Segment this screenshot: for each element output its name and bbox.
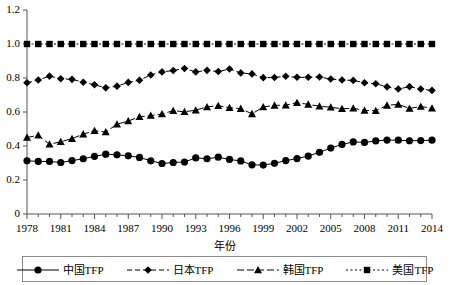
- data-point-square: [91, 41, 97, 47]
- data-point-square: [328, 41, 334, 47]
- data-point-square: [339, 41, 345, 47]
- data-point-diamond: [158, 68, 166, 76]
- data-point-circle: [102, 151, 109, 158]
- data-point-square: [204, 41, 210, 47]
- data-point-diamond: [79, 78, 87, 86]
- data-point-circle: [91, 153, 98, 160]
- data-point-triangle: [68, 135, 76, 142]
- data-point-square: [418, 41, 424, 47]
- data-point-circle: [428, 137, 435, 144]
- data-point-circle: [417, 137, 424, 144]
- data-point-circle: [158, 160, 165, 167]
- data-point-square: [170, 41, 176, 47]
- data-point-square: [350, 41, 356, 47]
- data-point-circle: [80, 155, 87, 162]
- data-point-diamond: [394, 85, 402, 93]
- data-point-circle: [46, 158, 53, 165]
- data-point-diamond: [406, 83, 414, 91]
- data-point-triangle: [383, 101, 391, 108]
- data-point-circle: [170, 159, 177, 166]
- data-point-triangle: [214, 102, 222, 109]
- legend-swatch-diamond: [126, 263, 170, 277]
- data-point-diamond: [147, 71, 155, 79]
- data-point-square: [395, 41, 401, 47]
- data-point-square: [80, 41, 86, 47]
- data-point-square: [249, 41, 255, 47]
- data-point-square: [305, 41, 311, 47]
- data-point-diamond: [293, 74, 301, 82]
- data-point-diamond: [271, 74, 279, 82]
- data-point-circle: [406, 137, 413, 144]
- data-point-circle: [68, 157, 75, 164]
- legend-label: 日本TFP: [173, 264, 214, 276]
- data-point-circle: [226, 156, 233, 163]
- data-point-diamond: [57, 75, 65, 83]
- data-point-diamond: [248, 70, 256, 78]
- y-axis-tick-label: 0.4: [0, 140, 20, 151]
- data-point-triangle: [248, 110, 256, 117]
- data-point-diamond: [144, 266, 152, 274]
- data-point-square: [283, 41, 289, 47]
- data-point-circle: [113, 151, 120, 158]
- data-point-square: [226, 41, 232, 47]
- data-point-square: [373, 41, 379, 47]
- data-point-square: [361, 41, 367, 47]
- x-axis-tick-label: 2014: [412, 223, 449, 234]
- data-point-triangle: [417, 103, 425, 110]
- data-point-square: [181, 41, 187, 47]
- data-point-triangle: [91, 127, 99, 134]
- data-point-diamond: [113, 82, 121, 90]
- data-point-circle: [125, 152, 132, 159]
- data-point-square: [260, 41, 266, 47]
- y-axis-tick-label: 0: [0, 208, 20, 219]
- data-point-diamond: [192, 68, 200, 76]
- legend-item-0[interactable]: 中国TFP: [16, 263, 104, 277]
- data-point-diamond: [34, 76, 42, 84]
- data-point-square: [406, 41, 412, 47]
- data-point-square: [294, 41, 300, 47]
- data-point-circle: [181, 158, 188, 165]
- legend-label: 韩国TFP: [283, 264, 324, 276]
- data-point-square: [136, 41, 142, 47]
- series-1: [23, 65, 436, 95]
- data-point-diamond: [383, 83, 391, 91]
- legend-swatch-circle: [16, 263, 60, 277]
- data-point-circle: [383, 136, 390, 143]
- data-point-triangle: [46, 140, 54, 147]
- legend-item-3[interactable]: 美国TFP: [345, 263, 433, 277]
- data-point-diamond: [102, 84, 110, 92]
- data-point-circle: [350, 138, 357, 145]
- data-point-square: [384, 41, 390, 47]
- data-point-diamond: [237, 69, 245, 77]
- data-point-diamond: [372, 80, 380, 88]
- data-point-circle: [293, 155, 300, 162]
- legend-label: 中国TFP: [63, 264, 104, 276]
- data-point-circle: [305, 152, 312, 159]
- data-point-square: [148, 41, 154, 47]
- data-point-diamond: [338, 76, 346, 84]
- legend-item-2[interactable]: 韩国TFP: [236, 263, 324, 277]
- data-point-square: [35, 41, 41, 47]
- data-point-triangle: [158, 110, 166, 117]
- y-axis-tick-label: 0.2: [0, 174, 20, 185]
- data-point-diamond: [361, 79, 369, 87]
- data-point-diamond: [23, 79, 31, 87]
- legend-item-1[interactable]: 日本TFP: [126, 263, 214, 277]
- data-point-circle: [395, 137, 402, 144]
- data-point-triangle: [34, 131, 42, 138]
- data-point-diamond: [91, 81, 99, 89]
- data-point-diamond: [169, 67, 177, 75]
- series-0: [23, 136, 435, 168]
- y-axis-tick-label: 1.0: [0, 38, 20, 49]
- y-axis-tick-label: 0.6: [0, 106, 20, 117]
- data-point-circle: [203, 155, 210, 162]
- data-point-triangle: [293, 99, 301, 106]
- data-point-square: [364, 267, 370, 273]
- data-point-circle: [147, 157, 154, 164]
- data-point-diamond: [226, 65, 234, 73]
- data-point-circle: [260, 161, 267, 168]
- data-point-diamond: [304, 74, 312, 82]
- data-point-circle: [327, 144, 334, 151]
- data-point-diamond: [46, 72, 54, 80]
- data-point-diamond: [259, 74, 267, 82]
